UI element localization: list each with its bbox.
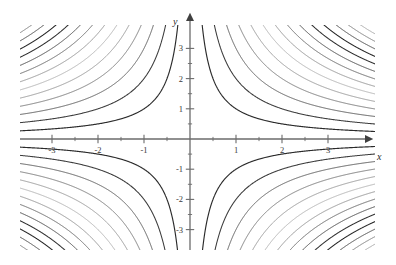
y-axis-label: y — [172, 16, 178, 27]
contour-curve — [352, 239, 384, 259]
x-axis-label: x — [376, 151, 382, 162]
contour-curve — [0, 19, 178, 132]
x-tick-label: 1 — [234, 145, 238, 155]
contour-curve — [0, 146, 178, 259]
contour-curve — [225, 160, 384, 259]
contour-curve — [352, 19, 384, 39]
contour-curve — [0, 19, 51, 53]
contour-curve — [317, 218, 384, 259]
y-tick-label: -2 — [176, 194, 183, 204]
contour-curve — [0, 19, 74, 68]
x-tick-label: -2 — [94, 145, 101, 155]
contour-curve — [0, 203, 86, 259]
contour-curve — [329, 19, 384, 53]
x-tick-label: -3 — [48, 145, 55, 155]
y-tick-label: -3 — [176, 225, 183, 235]
contour-curve — [236, 168, 384, 259]
contour-curve — [236, 19, 384, 110]
x-tick-label: -1 — [140, 145, 147, 155]
contour-curve — [0, 182, 121, 259]
plot-canvas: -3-2-1123-3-2-1123 x y — [0, 0, 396, 265]
contour-curve — [0, 225, 51, 259]
contour-curve — [213, 153, 384, 259]
x-tick-label: 2 — [280, 145, 284, 155]
contour-curve — [0, 19, 155, 118]
contour-curve — [329, 225, 384, 259]
x-tick-label: 3 — [326, 145, 330, 155]
axes-layer: -3-2-1123-3-2-1123 — [20, 20, 366, 250]
contour-plot-figure: -3-2-1123-3-2-1123 x y — [0, 0, 396, 265]
contour-curve — [317, 19, 384, 60]
contour-curve — [259, 182, 384, 259]
contour-curve — [306, 211, 384, 260]
contour-curve — [213, 19, 384, 125]
contour-curve — [259, 19, 384, 96]
contour-curve — [0, 19, 121, 96]
contour-curve — [283, 19, 385, 82]
contour-curve — [306, 19, 384, 68]
contour-curve — [0, 19, 28, 39]
contour-curve — [0, 211, 74, 260]
contour-curve — [225, 19, 384, 118]
contour-curve — [202, 146, 385, 259]
contour-curve — [202, 19, 385, 132]
y-tick-label: 2 — [179, 74, 183, 84]
y-tick-label: 3 — [179, 43, 183, 53]
y-tick-label: -1 — [176, 164, 183, 174]
y-tick-label: 1 — [179, 104, 183, 114]
contour-curve — [283, 196, 385, 259]
contour-curve — [0, 239, 28, 259]
contour-curve — [0, 19, 86, 75]
contour-curve — [0, 218, 63, 259]
contour-curve — [0, 160, 155, 259]
